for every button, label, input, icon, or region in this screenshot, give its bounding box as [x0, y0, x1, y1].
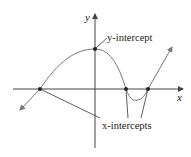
x-intercept-leader-3 [141, 89, 148, 118]
curve-left-tail [20, 89, 40, 110]
x-axis-label: x [176, 91, 182, 103]
polynomial-curve [40, 49, 148, 100]
y-axis-label: y [84, 11, 90, 23]
x-intercepts-label: x-intercepts [102, 120, 152, 131]
curve-right-tail [148, 47, 172, 89]
y-intercept-leader [96, 38, 107, 48]
x-intercept-leader-1 [40, 89, 100, 118]
y-intercept-label: y-intercept [107, 32, 153, 43]
polynomial-graph: y x y-intercept x-intercepts [0, 0, 191, 157]
